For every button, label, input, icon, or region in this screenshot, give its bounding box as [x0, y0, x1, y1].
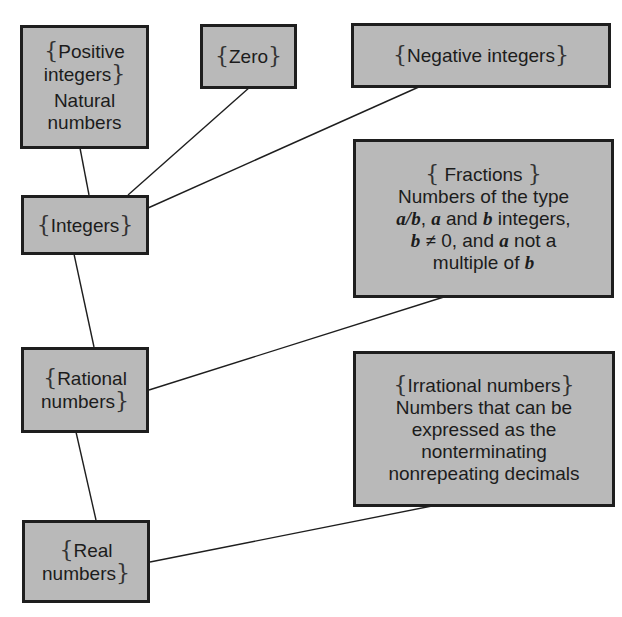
label-line: numbers: [41, 391, 115, 412]
text-fragment: ,: [421, 208, 432, 229]
set-label: {Zero}: [215, 45, 282, 68]
close-brace-icon: }: [119, 212, 133, 237]
node-irrational-numbers: {Irrational numbers} Numbers that can be…: [353, 351, 615, 507]
open-brace-icon: {: [393, 372, 407, 397]
open-brace-icon: {: [37, 212, 51, 237]
node-negative-integers: {Negative integers}: [351, 23, 611, 88]
node-positive-integers: {Positive integers} Natural numbers: [20, 25, 149, 149]
open-brace-icon: {: [59, 537, 73, 562]
text-fragment: and: [441, 208, 483, 229]
label-line: Real: [73, 540, 112, 561]
text-fragment: integers,: [492, 208, 570, 229]
close-brace-icon: }: [111, 61, 125, 86]
label-line: Zero: [229, 46, 268, 67]
label-line: Irrational numbers: [407, 375, 560, 396]
node-real-numbers: {Real numbers}: [22, 520, 150, 603]
close-brace-icon: }: [115, 388, 129, 413]
not-equal-icon: ≠: [425, 230, 435, 251]
text-fragment: , and: [452, 230, 500, 251]
set-label: integers}: [44, 63, 126, 86]
open-brace-icon: {: [43, 365, 57, 390]
description-line: Natural: [54, 90, 115, 112]
close-brace-icon: }: [528, 161, 542, 186]
math-a-over-b: a/b: [396, 208, 420, 229]
open-brace-icon: {: [44, 38, 58, 63]
description-line: numbers: [48, 112, 122, 134]
node-fractions: { Fractions } Numbers of the type a/b, a…: [353, 139, 614, 298]
text-fragment: 0: [441, 230, 452, 251]
set-label: {Negative integers}: [393, 44, 569, 67]
description-line: expressed as the: [412, 419, 557, 441]
label-line: Negative integers: [407, 45, 555, 66]
edge-positive-integers: [80, 148, 89, 195]
node-integers: {Integers}: [21, 195, 149, 255]
label-line: Fractions: [444, 164, 522, 185]
set-label: numbers}: [42, 562, 130, 585]
edge-irrational-real: [150, 505, 437, 562]
set-label: {Positive: [44, 40, 125, 63]
edge-integers-rational: [74, 254, 94, 347]
label-line: Integers: [51, 215, 120, 236]
open-brace-icon: {: [393, 42, 407, 67]
description-line: Numbers of the type: [398, 186, 569, 208]
description-line: a/b, a and b integers,: [396, 208, 570, 230]
text-fragment: not a: [509, 230, 557, 251]
label-line: Positive: [58, 41, 125, 62]
text-fragment: multiple of: [433, 252, 525, 273]
label-line: numbers: [42, 563, 116, 584]
set-label: {Real: [59, 539, 112, 562]
description-line: nonrepeating decimals: [388, 463, 579, 485]
set-label: {Rational: [43, 367, 127, 390]
description-line: nonterminating: [421, 441, 547, 463]
description-line: multiple of b: [433, 252, 534, 274]
set-label: numbers}: [41, 390, 129, 413]
set-label: {Irrational numbers}: [393, 374, 574, 397]
label-line: integers: [44, 64, 112, 85]
math-b: b: [411, 230, 421, 251]
node-rational-numbers: {Rational numbers}: [21, 347, 149, 433]
close-brace-icon: }: [561, 372, 575, 397]
open-brace-icon: {: [215, 43, 229, 68]
description-line: Numbers that can be: [396, 397, 572, 419]
close-brace-icon: }: [555, 42, 569, 67]
math-a: a: [431, 208, 441, 229]
label-line: Rational: [57, 368, 127, 389]
math-a: a: [499, 230, 509, 251]
description-line: b ≠ 0, and a not a: [411, 230, 557, 252]
set-label: {Integers}: [37, 214, 134, 237]
close-brace-icon: }: [268, 43, 282, 68]
edge-rational-real: [76, 432, 96, 520]
set-label: { Fractions }: [425, 163, 542, 186]
node-zero: {Zero}: [200, 24, 297, 89]
open-brace-icon: {: [425, 161, 439, 186]
math-b: b: [525, 252, 535, 273]
close-brace-icon: }: [116, 560, 130, 585]
